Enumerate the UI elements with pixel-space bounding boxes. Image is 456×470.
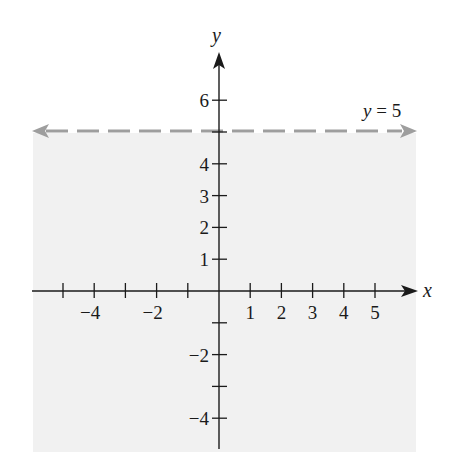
x-tick-label: 1 — [245, 302, 255, 323]
y-tick-label: 2 — [200, 217, 210, 238]
x-tick-label: −4 — [80, 302, 101, 323]
y-tick-label: 6 — [200, 90, 210, 111]
y-axis-label: y — [210, 24, 221, 47]
x-tick-label: 5 — [370, 302, 380, 323]
y-tick-label: 1 — [200, 249, 210, 270]
shaded-region — [33, 133, 416, 452]
equation-variable: y — [361, 100, 372, 121]
y-tick-label: 3 — [200, 186, 210, 207]
x-tick-label: 4 — [339, 302, 349, 323]
equation-rest: = 5 — [371, 100, 401, 121]
x-tick-label: −2 — [142, 302, 162, 323]
y-tick-label: −4 — [189, 408, 210, 429]
x-tick-label: 3 — [308, 302, 318, 323]
x-tick-label: 2 — [277, 302, 287, 323]
boundary-line-label: y = 5 — [361, 100, 401, 121]
y-tick-label: −2 — [189, 345, 209, 366]
coordinate-plane-chart: −4−212345 64321−2−4 x y y = 5 — [0, 0, 456, 470]
x-axis-label: x — [422, 279, 432, 301]
y-tick-label: 4 — [200, 154, 210, 175]
